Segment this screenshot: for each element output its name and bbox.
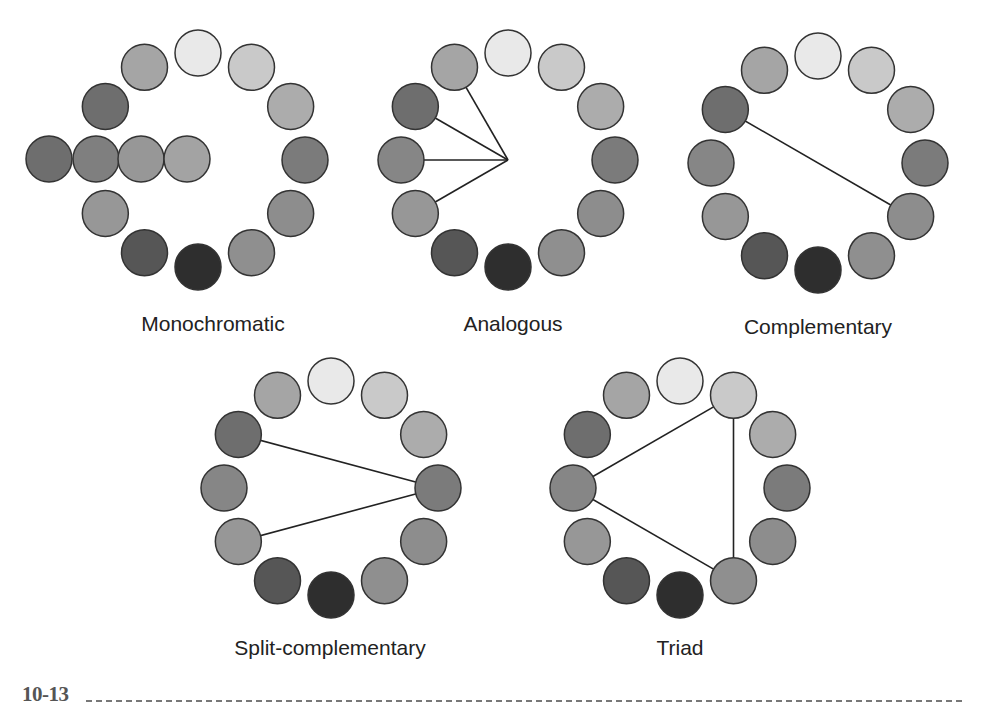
figure-number: 10-13: [22, 682, 69, 707]
color-swatch: [122, 230, 168, 276]
color-swatch: [415, 465, 461, 511]
color-swatch: [392, 84, 438, 130]
color-swatch: [201, 465, 247, 511]
color-swatch: [362, 372, 408, 418]
color-swatch: [764, 465, 810, 511]
color-swatch: [215, 519, 261, 565]
color-swatch: [401, 519, 447, 565]
color-swatch: [657, 572, 703, 618]
wheel-triad: [550, 358, 810, 618]
color-swatch: [742, 47, 788, 93]
color-swatch: [902, 140, 948, 186]
color-swatch: [82, 191, 128, 237]
color-swatch: [604, 372, 650, 418]
color-swatch: [578, 191, 624, 237]
color-swatch: [888, 194, 934, 240]
color-swatch: [550, 465, 596, 511]
color-swatch: [432, 44, 478, 90]
color-swatch: [592, 137, 638, 183]
color-swatch: [392, 191, 438, 237]
tint-swatch: [73, 136, 119, 182]
tint-swatch: [26, 136, 72, 182]
color-swatch: [711, 558, 757, 604]
color-swatch: [711, 372, 757, 418]
color-swatch: [229, 230, 275, 276]
connector-line: [725, 110, 910, 217]
color-swatch: [175, 244, 221, 290]
color-swatch: [657, 358, 703, 404]
color-swatch: [750, 412, 796, 458]
color-swatch: [175, 30, 221, 76]
wheel-split-complementary: [201, 358, 461, 618]
color-swatch: [795, 33, 841, 79]
wheel-complementary: [688, 33, 948, 293]
label-split-complementary: Split-complementary: [180, 636, 480, 660]
color-swatch: [888, 87, 934, 133]
dashed-rule: [86, 700, 962, 702]
color-swatch: [229, 44, 275, 90]
label-monochromatic: Monochromatic: [63, 312, 363, 336]
color-swatch: [362, 558, 408, 604]
color-swatch: [268, 84, 314, 130]
color-swatch: [849, 47, 895, 93]
color-swatch: [750, 519, 796, 565]
color-harmony-diagram: [0, 0, 981, 708]
color-swatch: [688, 140, 734, 186]
wheel-analogous: [378, 30, 638, 290]
color-swatch: [122, 44, 168, 90]
color-swatch: [742, 233, 788, 279]
color-swatch: [485, 244, 531, 290]
color-swatch: [255, 558, 301, 604]
color-swatch: [539, 230, 585, 276]
color-swatch: [702, 87, 748, 133]
color-swatch: [702, 194, 748, 240]
color-swatch: [255, 372, 301, 418]
color-swatch: [308, 358, 354, 404]
label-triad: Triad: [530, 636, 830, 660]
color-swatch: [378, 137, 424, 183]
color-swatch: [432, 230, 478, 276]
color-swatch: [308, 572, 354, 618]
label-analogous: Analogous: [363, 312, 663, 336]
color-swatch: [795, 247, 841, 293]
color-swatch: [849, 233, 895, 279]
color-swatch: [604, 558, 650, 604]
color-swatch: [485, 30, 531, 76]
color-swatch: [282, 137, 328, 183]
label-complementary: Complementary: [668, 315, 968, 339]
wheel-monochromatic: [26, 30, 328, 290]
tint-swatch: [118, 136, 164, 182]
color-swatch: [564, 412, 610, 458]
color-swatch: [82, 84, 128, 130]
color-swatch: [539, 44, 585, 90]
connector-lines: [725, 110, 910, 217]
color-swatch: [564, 519, 610, 565]
color-swatch: [578, 84, 624, 130]
tint-swatch: [164, 136, 210, 182]
color-swatch: [401, 412, 447, 458]
color-swatch: [215, 412, 261, 458]
color-swatch: [268, 191, 314, 237]
